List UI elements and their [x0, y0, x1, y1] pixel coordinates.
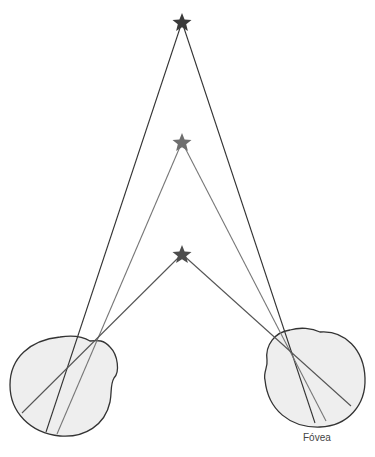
fovea-label: Fóvea [303, 432, 331, 443]
far-star-icon [173, 13, 192, 31]
far-ray-right [182, 22, 315, 423]
middle-star-icon [173, 133, 192, 151]
binocular-vision-diagram [0, 0, 375, 457]
left-eye [10, 336, 117, 436]
right-eye [265, 328, 366, 427]
mid-ray-left [57, 142, 182, 434]
mid-ray-right [182, 142, 326, 421]
